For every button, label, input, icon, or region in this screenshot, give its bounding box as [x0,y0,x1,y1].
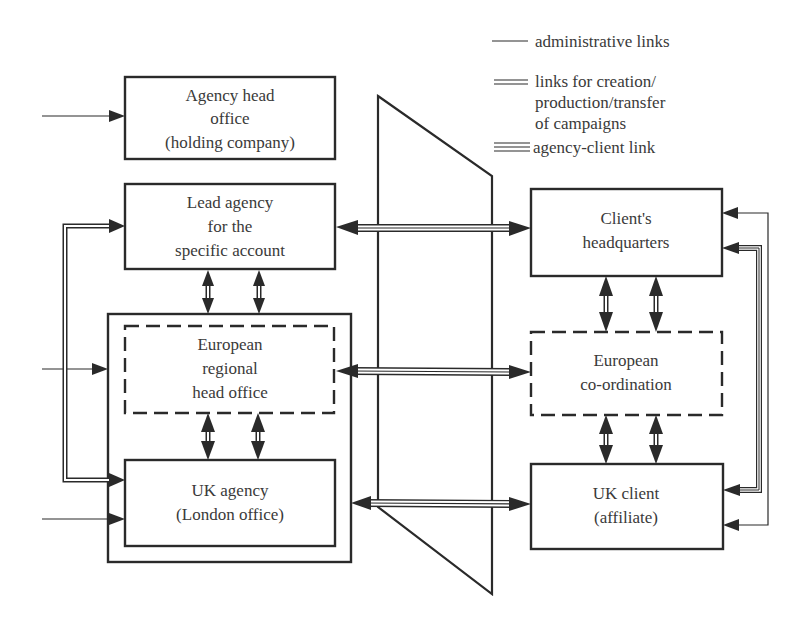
agency-head-office-label-2: office [210,109,249,128]
arrow-head-icon [109,473,125,487]
arrow-head-icon [109,513,125,525]
arrow-head-icon [723,484,740,496]
arrow-head-icon [109,110,125,122]
legend-label-creation-line1: links for creation/ [535,72,656,91]
legend: administrative links links for creation/… [492,32,670,157]
agency-client-boundary-plane [378,96,492,594]
bidirectional-arrow [202,270,214,314]
uk-agency-label-2: (London office) [176,505,284,524]
agency-client-structure-diagram: administrative links links for creation/… [0,0,808,632]
legend-item-agency-client: agency-client link [494,138,656,157]
client-headquarters-box: Client's headquarters [531,189,722,276]
bidirectional-arrow [336,220,531,236]
triple-line-icon [494,143,530,151]
legend-label-creation-line2: production/transfer [535,93,666,112]
arrow-head-icon [723,519,739,531]
european-regional-label-3: head office [192,383,268,402]
bidirectional-arrow [599,415,613,464]
bidirectional-arrow [251,413,265,460]
agency-head-office-label-1: Agency head [185,86,275,105]
uk-agency-box: UK agency (London office) [125,460,335,546]
european-coordination-label-2: co-ordination [580,375,672,394]
bidirectional-arrow [649,276,663,332]
double-line-icon [494,80,528,84]
european-coordination-label-1: European [593,351,659,370]
european-regional-label-2: regional [202,359,258,378]
european-coordination-box: European co-ordination [531,332,722,415]
arrow-head-icon [722,207,738,219]
uk-client-box: UK client (affiliate) [531,464,723,549]
uk-agency-label-1: UK agency [192,481,269,500]
lead-agency-label-2: for the [208,217,253,236]
lead-agency-label-1: Lead agency [187,193,274,212]
uk-client-label-2: (affiliate) [594,508,658,527]
lead-agency-box: Lead agency for the specific account [125,184,335,269]
legend-item-administrative: administrative links [492,32,670,51]
uk-client-label-1: UK client [593,484,660,503]
legend-item-creation-links: links for creation/ production/transfer … [494,72,666,133]
legend-label-administrative: administrative links [535,32,670,51]
client-hq-label-2: headquarters [583,233,670,252]
lead-agency-label-3: specific account [175,241,285,260]
bidirectional-arrow [599,276,613,332]
european-regional-label-1: European [197,335,263,354]
arrow-head-icon [722,242,739,254]
bidirectional-arrow [201,413,215,460]
legend-label-agency-client: agency-client link [533,138,656,157]
bidirectional-arrow [253,270,265,314]
client-hq-label-1: Client's [600,209,651,228]
agency-head-office-box: Agency head office (holding company) [125,77,335,159]
agency-head-office-label-3: (holding company) [165,133,295,152]
arrow-head-icon [92,363,108,375]
european-regional-head-office-box: European regional head office [125,326,334,413]
bidirectional-arrow [649,415,663,464]
bidirectional-arrow [336,364,531,379]
legend-label-creation-line3: of campaigns [535,114,626,133]
arrow-head-icon [109,219,125,233]
